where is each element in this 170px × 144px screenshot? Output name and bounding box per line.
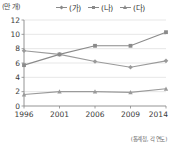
legend-item-da[interactable]: (다)	[120, 2, 145, 13]
y-axis-tick-label: 12	[10, 16, 20, 25]
chart-legend: (가) (나) (다)	[56, 2, 145, 13]
y-axis-tick-label: 10	[10, 30, 20, 39]
data-point[interactable]	[164, 59, 169, 64]
y-axis-tick-label: 2	[15, 87, 20, 96]
legend-label-na: (나)	[101, 2, 113, 13]
x-axis-tick-label: 2014 (년)	[149, 109, 170, 119]
data-point[interactable]	[128, 65, 133, 70]
data-point[interactable]	[93, 44, 97, 48]
plot-svg: 02468101219962001200620092014 (년)	[0, 16, 170, 128]
legend-item-na[interactable]: (나)	[88, 2, 113, 13]
data-point[interactable]	[58, 53, 62, 57]
x-axis-tick-label: 2006	[85, 110, 104, 119]
y-axis-tick-label: 4	[15, 73, 20, 82]
x-axis-tick-label: 1996	[14, 110, 33, 119]
legend-marker-triangle-icon	[120, 4, 131, 11]
legend-label-ga: (가)	[69, 2, 81, 13]
data-point[interactable]	[22, 49, 27, 54]
data-point[interactable]	[22, 63, 26, 67]
legend-label-da: (다)	[133, 2, 145, 13]
y-axis-tick-label: 6	[15, 59, 20, 68]
x-axis-tick-label: 2001	[50, 110, 69, 119]
x-axis-tick-label: 2009	[121, 110, 140, 119]
y-axis-tick-label: 8	[15, 44, 20, 53]
legend-item-ga[interactable]: (가)	[56, 2, 81, 13]
legend-marker-square-icon	[88, 4, 99, 11]
data-point[interactable]	[129, 44, 133, 48]
legend-marker-diamond-icon	[56, 4, 67, 11]
line-chart: (만 개) (가) (나) (다) 0246810121996200120062…	[0, 0, 170, 144]
data-point[interactable]	[164, 30, 168, 34]
source-note: (통계청, 각 연도)	[131, 135, 167, 143]
y-axis-unit-label: (만 개)	[2, 1, 20, 11]
plot-area: 02468101219962001200620092014 (년)	[0, 16, 170, 128]
